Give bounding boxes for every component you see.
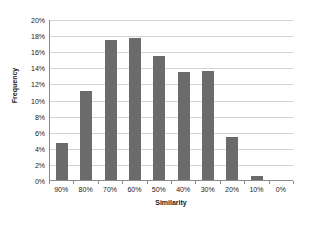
x-axis-tick-label: 70% — [98, 186, 122, 193]
bar-slot — [50, 20, 74, 180]
bar-slot — [99, 20, 123, 180]
x-axis-tick-mark — [147, 181, 148, 184]
bar — [129, 38, 141, 180]
y-axis-tick-label: 8% — [35, 113, 45, 120]
y-axis-tick-label: 2% — [35, 161, 45, 168]
y-axis-tick-label: 0% — [35, 178, 45, 185]
x-axis-tick-label: 80% — [73, 186, 97, 193]
x-axis-tick-mark — [49, 181, 50, 184]
x-axis-tick-label: 0% — [269, 186, 293, 193]
x-axis-tick-mark — [122, 181, 123, 184]
y-axis-tick-label: 16% — [31, 49, 45, 56]
bar-series — [50, 20, 293, 180]
y-axis-tick-label: 4% — [35, 145, 45, 152]
bar-slot — [123, 20, 147, 180]
bar-slot — [269, 20, 293, 180]
y-axis-tick-label: 14% — [31, 65, 45, 72]
x-axis-tick-mark — [73, 181, 74, 184]
bar — [226, 137, 238, 180]
x-axis-tick-label: 90% — [49, 186, 73, 193]
bar — [178, 72, 190, 180]
bar-slot — [196, 20, 220, 180]
bar-slot — [74, 20, 98, 180]
bar-slot — [147, 20, 171, 180]
x-axis-tick-label: 40% — [171, 186, 195, 193]
x-axis-tick-mark — [269, 181, 270, 184]
x-axis-tick-mark — [98, 181, 99, 184]
x-axis-tick-label: 30% — [195, 186, 219, 193]
x-axis-tick-label: 10% — [244, 186, 268, 193]
bar — [80, 91, 92, 180]
x-axis-tick-label: 60% — [122, 186, 146, 193]
y-axis-tick-label: 12% — [31, 81, 45, 88]
bar-slot — [171, 20, 195, 180]
x-axis-tick-labels: 90%80%70%60%50%40%30%20%10%0% — [49, 186, 293, 193]
bar — [153, 56, 165, 180]
x-axis-tick-mark — [220, 181, 221, 184]
bar-slot — [244, 20, 268, 180]
y-axis-tick-label: 20% — [31, 17, 45, 24]
x-axis-tick-marks — [49, 181, 293, 185]
bar — [56, 143, 68, 180]
y-axis-tick-label: 18% — [31, 33, 45, 40]
x-axis-tick-mark — [195, 181, 196, 184]
bar — [202, 71, 214, 180]
bar-slot — [220, 20, 244, 180]
x-axis-tick-label: 50% — [147, 186, 171, 193]
x-axis-tick-mark — [171, 181, 172, 184]
x-axis-tick-mark — [244, 181, 245, 184]
y-axis-tick-label: 6% — [35, 129, 45, 136]
x-axis-tick-mark — [293, 181, 294, 184]
x-axis-tick-label: 20% — [220, 186, 244, 193]
y-axis-tick-label: 10% — [31, 97, 45, 104]
plot-area — [49, 20, 293, 181]
x-axis-title: Similarity — [49, 199, 293, 206]
bar — [105, 40, 117, 180]
bar — [251, 176, 263, 180]
y-axis-tick-labels: 20%18%16%14%12%10%8%6%4%2%0% — [0, 0, 49, 201]
frequency-similarity-bar-chart: Frequency 20%18%16%14%12%10%8%6%4%2%0% 9… — [0, 0, 311, 225]
